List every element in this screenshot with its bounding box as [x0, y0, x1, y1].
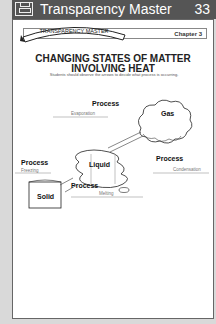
chapter-label: Chapter 3: [174, 29, 202, 39]
process-answer-condensation: Condensation: [173, 167, 201, 172]
ribbon-text: TRANSPARENCY MASTER: [39, 28, 108, 34]
header-bar: Transparency Master 33: [12, 0, 216, 19]
process-answer-melting: Melting: [99, 191, 114, 196]
process-label-condensation: Process: [156, 155, 183, 162]
state-label-gas: Gas: [161, 110, 174, 117]
state-label-solid: Solid: [37, 193, 54, 200]
page-number: 33: [194, 1, 210, 18]
header-title: Transparency Master: [40, 1, 172, 18]
process-label-freezing: Process: [21, 159, 48, 166]
states-of-matter-diagram: Gas Liquid Solid Process Evaporation Pro…: [13, 90, 213, 210]
process-label-melting: Process: [71, 182, 98, 189]
transparency-page: Chapter 3 TRANSPARENCY MASTER CHANGING S…: [12, 19, 214, 319]
process-answer-evaporation: Evaporation: [71, 111, 95, 116]
gas-cloud-icon: [138, 100, 191, 143]
transparency-projector-icon: [15, 2, 33, 16]
state-label-liquid: Liquid: [89, 161, 110, 168]
process-answer-freezing: Freezing: [21, 168, 39, 173]
ribbon-banner: TRANSPARENCY MASTER: [19, 21, 129, 43]
instructions-text: Students should observe the arrows to de…: [17, 72, 211, 77]
process-label-evaporation: Process: [92, 100, 119, 107]
